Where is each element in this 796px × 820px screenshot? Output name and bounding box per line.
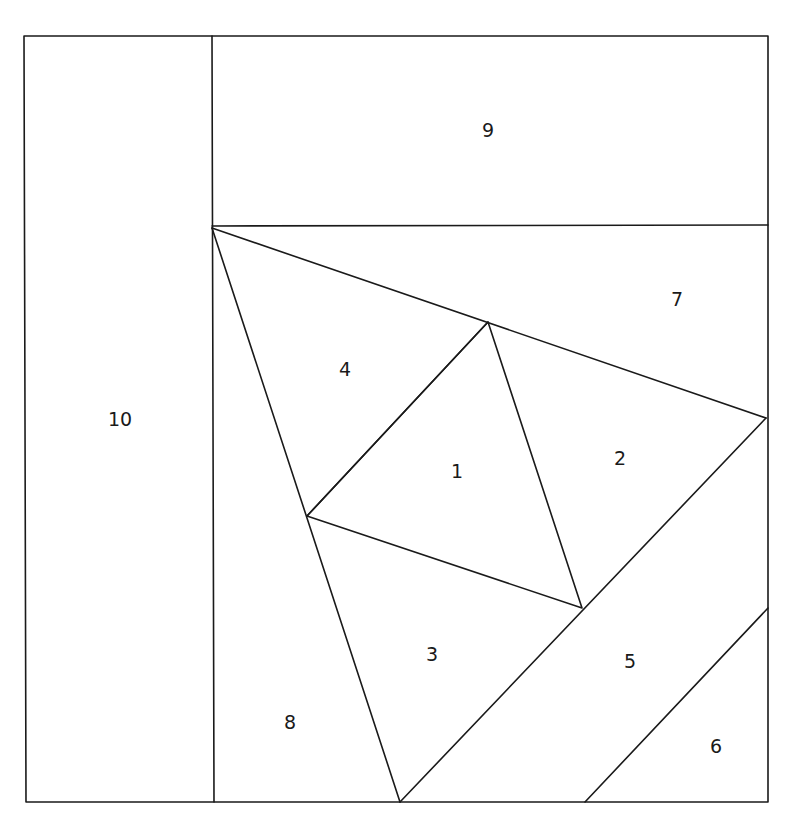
piece-label-10: 10 [108,408,132,430]
piece-label-5: 5 [624,650,636,672]
edge-piece-6 [585,608,768,802]
outer-frame [24,36,768,802]
piece-label-3: 3 [426,643,438,665]
piece-label-6: 6 [710,735,722,757]
edge-piece-1-4 [307,322,488,516]
edge-piece-8 [212,228,400,802]
divider-piece-9 [212,225,768,226]
quilt-pattern-diagram: 1 2 3 4 5 6 7 8 9 10 [0,0,796,820]
piece-label-9: 9 [482,119,494,141]
piece-label-7: 7 [671,288,683,310]
piece-label-1: 1 [451,460,463,482]
piece-label-8: 8 [284,711,296,733]
divider-piece-10 [212,36,214,802]
piece-label-4: 4 [339,358,351,380]
piece-label-2: 2 [614,447,626,469]
